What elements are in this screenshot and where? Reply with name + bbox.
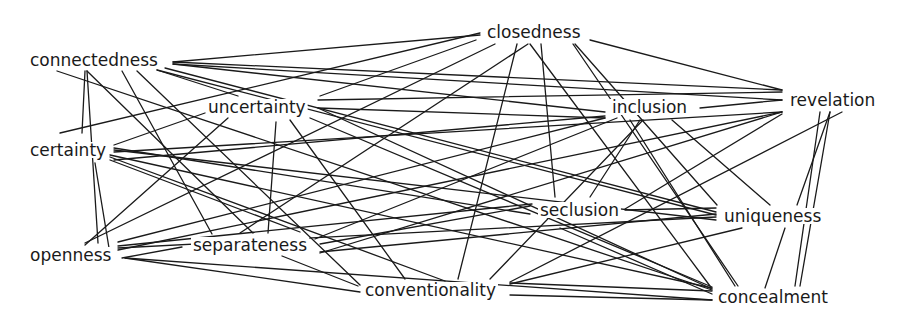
edge-seclusion-concealment	[560, 228, 712, 294]
node-concealment: concealment	[718, 287, 828, 307]
edge-inclusion-revelation	[700, 100, 782, 108]
edge-closedness-uncertainty	[320, 40, 476, 96]
edge-revelation-openness	[118, 112, 782, 250]
dialectics-network-diagram: closednessconnectednessuncertaintyinclus…	[0, 0, 902, 323]
node-revelation: revelation	[790, 90, 875, 110]
edge-inclusion-concealment	[630, 120, 735, 286]
edge-connectedness-separateness	[87, 71, 253, 233]
node-connectedness: connectedness	[30, 50, 158, 70]
node-openness: openness	[30, 245, 112, 265]
edge-openness-separateness	[122, 247, 182, 258]
node-uncertainty: uncertainty	[208, 97, 306, 117]
node-conventionality: conventionality	[365, 280, 496, 300]
node-closedness: closedness	[487, 22, 581, 42]
edge-openness-seclusion	[118, 204, 532, 246]
edge-uniqueness-conventionality	[510, 228, 742, 284]
edge-uncertainty-inclusion	[318, 108, 605, 118]
node-uniqueness: uniqueness	[724, 206, 821, 226]
edges-layer	[57, 33, 842, 300]
edge-connectedness-uniqueness	[165, 68, 716, 212]
edge-revelation-conventionality	[510, 112, 842, 282]
node-separateness: separateness	[193, 235, 307, 255]
edge-separateness-conventionality	[282, 256, 358, 286]
edge-openness-conventionality	[125, 258, 360, 292]
edge-uniqueness-concealment	[765, 228, 785, 288]
edge-revelation-concealment	[800, 112, 830, 286]
edge-connectedness-uncertainty	[157, 70, 238, 96]
edge-connectedness-closedness	[173, 35, 480, 62]
node-seclusion: seclusion	[540, 200, 619, 220]
edge-uncertainty-concealment	[310, 118, 712, 287]
edge-closedness-concealment	[573, 44, 738, 286]
edge-closedness-certainty	[60, 33, 480, 133]
edge-uncertainty-conventionality	[290, 120, 405, 279]
edge-conventionality-concealment	[510, 283, 712, 291]
node-certainty: certainty	[30, 140, 106, 160]
edge-closedness-concealment	[530, 44, 710, 286]
edge-certainty-conventionality	[110, 157, 445, 281]
edge-closedness-openness	[85, 44, 495, 243]
node-inclusion: inclusion	[612, 97, 687, 117]
edge-uncertainty-openness	[85, 118, 228, 245]
